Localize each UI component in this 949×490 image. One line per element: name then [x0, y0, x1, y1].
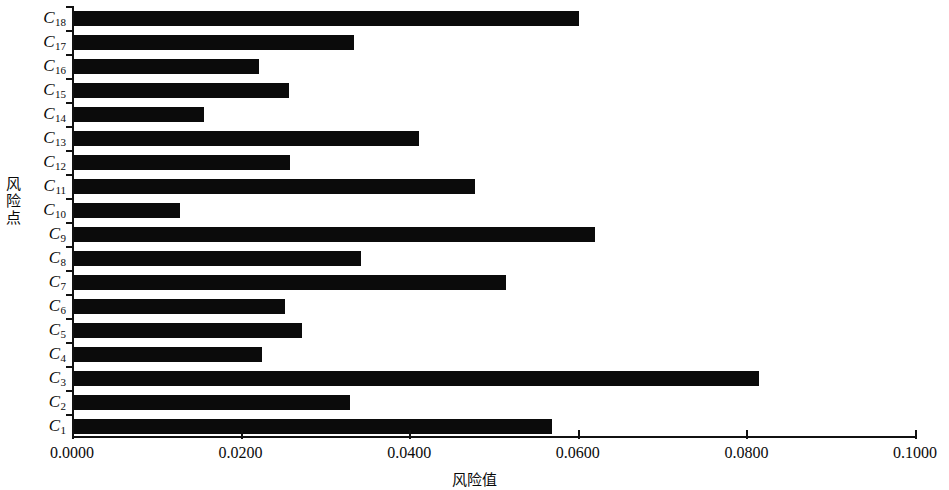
y-axis-tick-label-base: C [49, 248, 60, 267]
y-axis-title-char: 风 [2, 175, 24, 192]
y-axis-tick-label-base: C [49, 224, 60, 243]
bar-fill [74, 251, 361, 266]
y-axis-tick-label: C15 [43, 81, 66, 100]
y-axis-tick-label: C1 [49, 417, 66, 436]
bar [74, 275, 506, 290]
y-axis-tick [66, 366, 73, 368]
bar-fill [74, 131, 419, 146]
bar-fill [74, 83, 289, 98]
bar [74, 131, 419, 146]
y-axis-tick-label-subscript: 12 [55, 160, 66, 172]
bar-fill [74, 203, 180, 218]
y-axis-tick [66, 54, 73, 56]
bar-fill [74, 323, 302, 338]
bar-fill [74, 155, 290, 170]
y-axis-tick-label: C7 [49, 273, 66, 292]
y-axis-tick-label-base: C [43, 32, 54, 51]
bar-fill [74, 227, 595, 242]
y-axis-tick-label-subscript: 17 [55, 40, 66, 52]
y-axis-tick [66, 318, 73, 320]
y-axis-tick [66, 294, 73, 296]
x-axis-tick-label: 0.0200 [219, 444, 263, 462]
x-axis-tick [915, 430, 917, 439]
x-axis-tick-label: 0.0800 [724, 444, 768, 462]
y-axis-tick-label-base: C [49, 392, 60, 411]
y-axis-tick [66, 78, 73, 80]
y-axis-tick-label: C12 [43, 153, 66, 172]
bar-fill [74, 371, 759, 386]
bar [74, 59, 259, 74]
bar [74, 371, 759, 386]
bar-fill [74, 419, 552, 434]
bar-fill [74, 395, 350, 410]
y-axis-tick-label-subscript: 7 [61, 280, 67, 292]
bar-fill [74, 275, 506, 290]
bar [74, 203, 180, 218]
y-axis-tick-label: C14 [43, 105, 66, 124]
y-axis-tick-label-base: C [43, 152, 54, 171]
bar [74, 299, 285, 314]
bar [74, 227, 595, 242]
y-axis-tick-label-subscript: 6 [61, 304, 67, 316]
y-axis-tick-label-base: C [43, 8, 54, 27]
bar-chart-figure: 风险点 C1C2C3C4C5C6C7C8C9C10C11C12C13C14C15… [0, 0, 949, 490]
x-axis-tick-label: 0.1000 [893, 444, 937, 462]
y-axis-tick-label-subscript: 18 [55, 16, 66, 28]
y-axis-tick-label-base: C [43, 80, 54, 99]
y-axis-tick-label-subscript: 13 [55, 136, 66, 148]
y-axis-tick-label: C6 [49, 297, 66, 316]
y-axis-tick-label-subscript: 5 [61, 328, 67, 340]
bar [74, 83, 289, 98]
x-axis-tick-label: 0.0600 [556, 444, 600, 462]
y-axis-tick-label-subscript: 2 [61, 400, 67, 412]
bar-fill [74, 11, 579, 26]
y-axis-tick-label-base: C [49, 296, 60, 315]
y-axis-tick [66, 222, 73, 224]
y-axis-tick-label-base: C [49, 416, 60, 435]
y-axis-tick-label: C13 [43, 129, 66, 148]
y-axis-title-char: 险 [2, 192, 24, 209]
y-axis-tick-label-subscript: 16 [55, 64, 66, 76]
y-axis-tick-label: C9 [49, 225, 66, 244]
y-axis-tick-label-subscript: 11 [55, 184, 66, 196]
y-axis-tick [66, 246, 73, 248]
y-axis-tick [66, 342, 73, 344]
bar [74, 35, 354, 50]
x-axis-tick [578, 430, 580, 439]
y-axis-tick-label-base: C [44, 176, 55, 195]
y-axis-title-char: 点 [2, 209, 24, 226]
y-axis-tick-label: C4 [49, 345, 66, 364]
bar [74, 179, 475, 194]
y-axis-tick-label-base: C [49, 272, 60, 291]
y-axis-tick-label-base: C [43, 200, 54, 219]
bar-fill [74, 179, 475, 194]
y-axis-tick-label-base: C [43, 104, 54, 123]
bar [74, 347, 262, 362]
y-axis-tick-label-base: C [43, 56, 54, 75]
y-axis-tick-label: C2 [49, 393, 66, 412]
y-axis-tick-label-subscript: 3 [61, 376, 67, 388]
x-axis-tick-label: 0.0000 [50, 444, 94, 462]
y-axis-tick [66, 270, 73, 272]
x-axis-title: 风险值 [0, 468, 949, 489]
y-axis-tick-label-base: C [49, 368, 60, 387]
y-axis-tick [66, 30, 73, 32]
bar [74, 323, 302, 338]
y-axis-tick [66, 414, 73, 416]
bar [74, 11, 579, 26]
bar [74, 155, 290, 170]
y-axis-tick [66, 6, 73, 8]
y-axis-title: 风险点 [2, 175, 24, 226]
bar [74, 395, 350, 410]
y-axis-tick-label: C16 [43, 57, 66, 76]
y-axis-tick-label: C8 [49, 249, 66, 268]
bar-fill [74, 299, 285, 314]
y-axis-tick-label: C11 [44, 177, 66, 196]
y-axis-tick-label-subscript: 1 [61, 424, 67, 436]
y-axis-tick-label-subscript: 9 [61, 232, 67, 244]
y-axis-tick-label: C10 [43, 201, 66, 220]
y-axis-tick-label: C17 [43, 33, 66, 52]
x-axis-tick-label: 0.0400 [387, 444, 431, 462]
y-axis-tick-label-subscript: 10 [55, 208, 66, 220]
bar-fill [74, 347, 262, 362]
